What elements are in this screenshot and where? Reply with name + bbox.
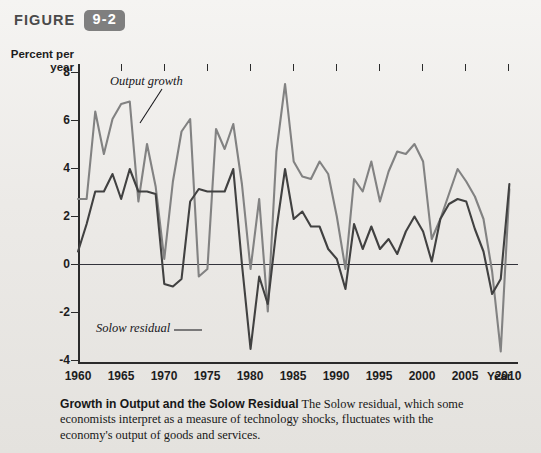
y-tick-neg4: -4 [36,353,70,367]
y-tick-2: 2 [40,209,70,223]
x-tick-1985: 1985 [270,369,316,383]
y-tickmark-0 [71,264,78,265]
x-tick-1975: 1975 [184,369,230,383]
y-tick-4: 4 [40,161,70,175]
figure-header: FIGURE 9-2 [14,10,125,31]
y-tickmark-2 [71,216,78,217]
x-tick-2010: 2010 [485,369,531,383]
y-axis-title-line1: Percent per [11,48,74,60]
x-tick-1960: 1960 [55,369,101,383]
y-tick-neg2: -2 [36,305,70,319]
x-tick-2005: 2005 [442,369,488,383]
y-tickmark-neg2 [71,312,78,313]
x-tick-1990: 1990 [313,369,359,383]
annotation-solow-residual: Solow residual [96,321,170,336]
figure-label: FIGURE [14,12,75,28]
y-tickmark-6 [71,120,78,121]
x-tick-1980: 1980 [227,369,273,383]
leader-line-output [140,89,162,123]
y-tickmark-4 [71,168,78,169]
figure-caption: Growth in Output and the Solow Residual … [60,397,480,443]
y-tick-6: 6 [40,113,70,127]
caption-source [60,443,480,452]
x-tick-1965: 1965 [98,369,144,383]
annotation-leaders [78,64,518,364]
x-tick-1995: 1995 [356,369,402,383]
chart-plot-area [78,64,518,364]
x-tick-1970: 1970 [141,369,187,383]
figure-number-badge: 9-2 [84,10,125,31]
y-tick-8: 8 [40,65,70,79]
y-tick-0: 0 [40,257,70,271]
annotation-output-growth: Output growth [110,74,183,89]
x-tick-2000: 2000 [399,369,445,383]
y-tickmark-neg4 [71,360,78,361]
figure-page: FIGURE 9-2 Percent per year Year 8 6 4 2… [0,0,541,453]
y-tickmark-8 [71,72,78,73]
caption-title: Growth in Output and the Solow Residual [60,397,299,411]
